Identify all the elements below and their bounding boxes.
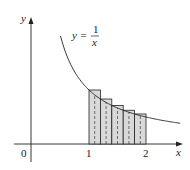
svg-text:1: 1 (93, 23, 99, 35)
riemann-rectangles (89, 90, 146, 144)
svg-text:y =: y = (71, 29, 87, 41)
svg-text:x: x (91, 36, 97, 48)
y-axis-arrow-icon (29, 17, 34, 24)
tick-label-origin: 0 (21, 147, 27, 159)
tick-label-2: 2 (143, 147, 149, 159)
curve-equation-label: y = 1 x (71, 23, 99, 48)
riemann-sum-diagram: y x 0 1 2 y = 1 x (0, 0, 190, 170)
y-axis-label: y (20, 12, 26, 24)
x-axis-label: x (175, 146, 181, 158)
tick-label-1: 1 (86, 147, 92, 159)
